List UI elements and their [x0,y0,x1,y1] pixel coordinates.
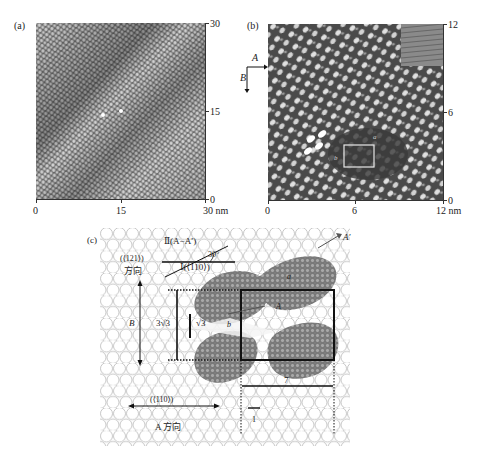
stm-image-b-texture [268,24,443,200]
panel-a-ytick-0: 0 [210,195,215,205]
panel-b-ytick-0: 0 [448,196,453,206]
panel-a-xtick-30: 30 nm [203,206,228,216]
dir-II-label: Ⅱ(A−A′) [164,236,196,246]
angle-30-label: 30° [208,250,219,260]
panel-b-ytick-6: 6 [448,108,453,118]
panel-b-overlay-b: b [334,153,338,163]
dir-110-label: (⟨110⟩) [150,395,173,405]
stm-image-a-texture [36,23,205,199]
dir-121-label: (⟨121⟩) [120,254,144,264]
panel-a-xtick-15: 15 [116,206,126,216]
direction-arrows-icon [244,60,268,94]
sqrt3-label: √3 [196,318,205,328]
panel-b-stm-image [268,24,443,200]
one-label: 1 [252,415,256,425]
seven-label: 7 [284,375,289,385]
panel-a-label: (a) [14,21,25,31]
panel-a-ytick-15: 15 [210,107,220,117]
panel-b-xtick-12: 12 nm [436,206,461,216]
A-label: A [276,302,281,312]
panel-b-xtick-6: 6 [352,206,357,216]
three-sqrt3-label: 3√3 [156,318,170,328]
panel-a-ytick-30: 30 [210,19,220,29]
panel-b-overlay-a: a [373,132,377,142]
dir-110-cn-label: A 方向 [155,422,181,432]
panel-b-xtick-0: 0 [265,206,270,216]
panel-b-ytick-12: 12 [448,20,458,30]
B-length-label: B [129,318,135,328]
panel-a-stm-image [36,23,205,199]
dir-121-cn-label: 方向 [124,266,142,276]
b-label: b [227,320,231,330]
a-label: a [287,272,291,282]
dir-I-label: Ⅰ(⟨110⟩) [180,262,210,272]
panel-c-label: (c) [87,235,97,245]
A-prime-label: A′ [343,232,350,242]
panel-a-xtick-0: 0 [33,206,38,216]
panel-b-label: (b) [247,21,259,31]
